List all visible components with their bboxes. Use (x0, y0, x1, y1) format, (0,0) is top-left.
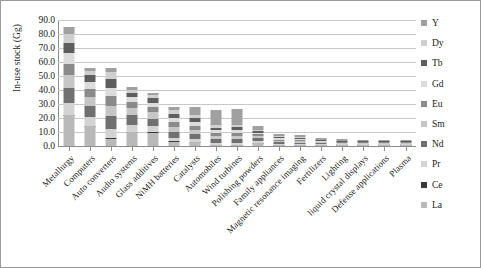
bar-segment (84, 82, 95, 89)
legend-item[interactable]: Pr (421, 154, 477, 174)
legend-swatch (421, 202, 427, 208)
y-axis-tick-label: 60.0 (38, 57, 55, 67)
bar-segment (189, 142, 200, 146)
bar-segment (147, 133, 158, 146)
legend-swatch (421, 101, 427, 107)
stacked-bar[interactable] (84, 68, 95, 146)
bar-segment (105, 96, 116, 106)
bar-series-container (58, 20, 416, 146)
bar-slot (332, 20, 353, 146)
bar-segment (84, 117, 95, 125)
bar-segment (63, 64, 74, 76)
stacked-bar[interactable] (295, 135, 306, 146)
legend-label: Eu (432, 99, 443, 109)
bar-slot (395, 20, 416, 146)
x-label-slot: Plasma (395, 151, 416, 263)
bar-segment (379, 145, 390, 146)
legend-label: Pr (432, 159, 440, 169)
legend-swatch (421, 81, 427, 87)
bar-slot (121, 20, 142, 146)
bar-segment (63, 115, 74, 146)
bar-slot (248, 20, 269, 146)
bar-segment (63, 103, 74, 114)
legend-item[interactable]: Nd (421, 134, 477, 154)
legend-label: Y (432, 18, 439, 28)
y-axis-tick-label: 80.0 (38, 29, 55, 39)
bar-segment (105, 106, 116, 117)
legend-item[interactable]: Gd (421, 74, 477, 94)
legend-item[interactable]: Tb (421, 53, 477, 73)
bar-slot (142, 20, 163, 146)
bar-slot (290, 20, 311, 146)
bar-segment (126, 132, 137, 146)
legend-swatch (421, 141, 427, 147)
bar-segment (316, 145, 327, 146)
stacked-bar[interactable] (210, 110, 221, 146)
stacked-bar[interactable] (232, 109, 243, 146)
bar-segment (84, 106, 95, 117)
stacked-bar[interactable] (274, 134, 285, 146)
stacked-bar[interactable] (147, 93, 158, 146)
legend-item[interactable]: La (421, 195, 477, 215)
stacked-bar[interactable] (379, 140, 390, 146)
bar-segment (63, 27, 74, 34)
legend-item[interactable]: Ce (421, 175, 477, 195)
bar-slot (353, 20, 374, 146)
bar-slot (58, 20, 79, 146)
stacked-bar[interactable] (105, 68, 116, 146)
bar-segment (105, 139, 116, 146)
stacked-bar[interactable] (337, 139, 348, 146)
bar-segment (126, 108, 137, 115)
bar-segment (84, 89, 95, 97)
legend-item[interactable]: Dy (421, 33, 477, 53)
y-axis-tick-label: 10.0 (38, 127, 55, 137)
bar-slot (205, 20, 226, 146)
bar-segment (189, 107, 200, 115)
bar-slot (163, 20, 184, 146)
y-axis-tick-label: 50.0 (38, 71, 55, 81)
stacked-bar[interactable] (400, 140, 411, 146)
bar-segment (105, 129, 116, 138)
legend-swatch (421, 121, 427, 127)
y-axis-tick-label: 70.0 (38, 43, 55, 53)
chart-figure: In-use stock (Gg) 0.010.020.030.040.050.… (0, 0, 481, 268)
stacked-bar[interactable] (253, 126, 264, 146)
legend-label: Nd (432, 139, 444, 149)
stacked-bar[interactable] (63, 27, 74, 146)
legend-label: Tb (432, 58, 443, 68)
bar-slot (374, 20, 395, 146)
y-axis-tick-label: 40.0 (38, 85, 55, 95)
legend-swatch (421, 40, 427, 46)
bar-slot (269, 20, 290, 146)
legend-label: Gd (432, 79, 444, 89)
y-axis-tick-label: 90.0 (38, 15, 55, 25)
bar-segment (126, 125, 137, 132)
stacked-bar[interactable] (189, 107, 200, 146)
bar-segment (168, 142, 179, 146)
legend-swatch (421, 161, 427, 167)
bar-slot (79, 20, 100, 146)
stacked-bar[interactable] (358, 140, 369, 146)
bar-segment (126, 115, 137, 124)
stacked-bar[interactable] (168, 107, 179, 146)
bar-segment (274, 145, 285, 146)
legend-label: Dy (432, 38, 444, 48)
legend-label: Sm (432, 119, 445, 129)
legend-item[interactable]: Y (421, 13, 477, 33)
x-axis-category-labels: MetallurgyComputersAuto convertersAudio … (58, 151, 416, 263)
bar-segment (63, 43, 74, 53)
stacked-bar[interactable] (316, 138, 327, 146)
stacked-bar[interactable] (126, 87, 137, 147)
bar-segment (210, 145, 221, 146)
y-axis-tick-label: 0.0 (43, 141, 55, 151)
bar-segment (147, 119, 158, 127)
bar-segment (295, 145, 306, 146)
legend-item[interactable]: Sm (421, 114, 477, 134)
bar-segment (105, 116, 116, 129)
legend-item[interactable]: Eu (421, 94, 477, 114)
bar-slot (100, 20, 121, 146)
bar-slot (311, 20, 332, 146)
bar-segment (337, 145, 348, 146)
bar-segment (105, 72, 116, 80)
bar-segment (105, 79, 116, 87)
